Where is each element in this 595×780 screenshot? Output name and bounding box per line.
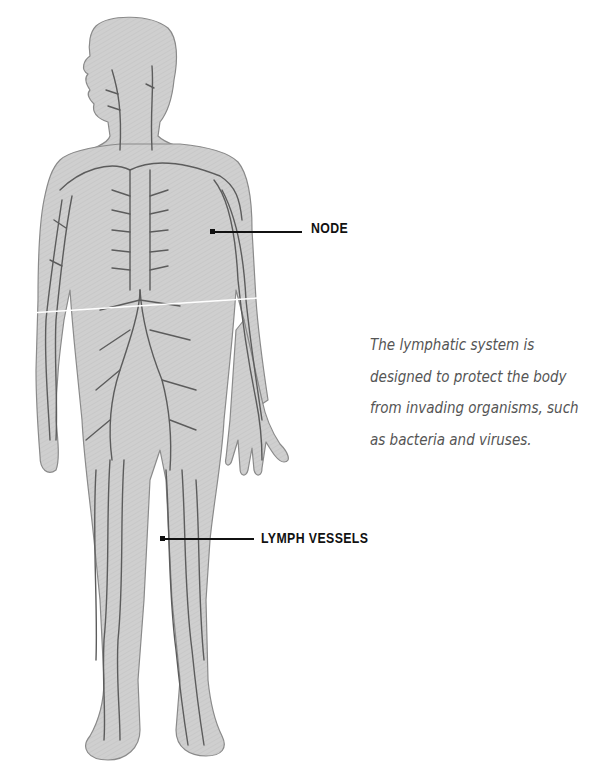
caption-line: from invading organisms, such <box>370 393 570 425</box>
caption-line: designed to protect the body <box>370 362 570 394</box>
node-leader-line <box>214 231 302 233</box>
body-silhouette <box>36 17 288 760</box>
lymph-vessels-label: LYMPH VESSELS <box>261 529 368 546</box>
caption-line: The lymphatic system is <box>370 330 570 362</box>
caption-line: as bacteria and viruses. <box>370 425 570 457</box>
caption: The lymphatic system is designed to prot… <box>370 330 592 456</box>
node-label: NODE <box>311 219 348 236</box>
lymph-vessels-leader-line <box>164 538 254 540</box>
